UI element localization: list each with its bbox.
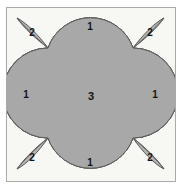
label-crescent-top: 1 bbox=[87, 21, 93, 32]
label-petal-top-right: 2 bbox=[147, 27, 153, 38]
label-center-astroid: 3 bbox=[88, 90, 94, 102]
label-crescent-right: 1 bbox=[152, 89, 158, 100]
label-crescent-bottom: 1 bbox=[87, 157, 93, 168]
label-petal-bottom-right: 2 bbox=[147, 152, 153, 163]
label-petal-top-left: 2 bbox=[29, 27, 35, 38]
geometric-diagram: 1 1 1 1 2 2 2 2 3 bbox=[0, 0, 183, 190]
label-petal-bottom-left: 2 bbox=[29, 152, 35, 163]
figure-root: 1 1 1 1 2 2 2 2 3 bbox=[0, 0, 183, 190]
label-crescent-left: 1 bbox=[23, 89, 29, 100]
